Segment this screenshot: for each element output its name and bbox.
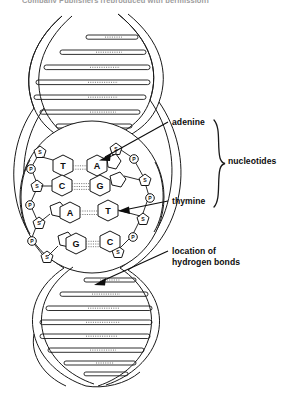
base-hexagon-G-2: G — [90, 175, 110, 196]
base-hexagon-C-4: C — [100, 231, 120, 252]
svg-text:P: P — [29, 166, 33, 172]
dna-illustration: S P S P S — [0, 0, 295, 393]
svg-text:S: S — [116, 249, 120, 255]
base-hexagon-A-3: A — [60, 202, 80, 223]
svg-text:C: C — [107, 237, 114, 247]
svg-text:P: P — [28, 202, 32, 208]
svg-text:A: A — [94, 161, 101, 171]
svg-text:P: P — [30, 238, 34, 244]
backbone-unit-left-2: P — [27, 165, 36, 174]
svg-text:P: P — [148, 195, 152, 201]
svg-text:S: S — [143, 177, 147, 183]
base-hexagon-C-2: C — [52, 175, 72, 196]
label-hydrogen-bonds-line2: hydrogen bonds — [172, 257, 240, 268]
svg-text:S: S — [35, 183, 39, 189]
nucleotides-brace — [214, 120, 225, 207]
backbone-unit-right-6: P — [129, 233, 138, 242]
base-hexagon-T-1: T — [53, 155, 73, 176]
svg-text:A: A — [67, 208, 74, 218]
svg-text:P: P — [131, 234, 135, 240]
svg-text:G: G — [72, 239, 79, 249]
base-hexagon-G-4: G — [66, 233, 86, 254]
backbone-unit-left-4: P — [26, 201, 35, 210]
svg-text:G: G — [96, 181, 103, 191]
bottom-helix-rungs — [40, 278, 152, 376]
base-hexagon-T-3: T — [98, 200, 118, 221]
svg-text:T: T — [105, 206, 111, 216]
enlarged-nucleotide-detail: S P S P S — [20, 121, 164, 273]
backbone-unit-right-2: P — [130, 155, 139, 164]
svg-text:S: S — [38, 149, 42, 155]
label-hydrogen-bonds-line1: location of — [172, 246, 240, 257]
svg-text:T: T — [60, 161, 66, 171]
label-hydrogen-bonds: location of hydrogen bonds — [172, 246, 240, 267]
backbone-unit-right-4: P — [146, 194, 155, 203]
label-nucleotides: nucleotides — [228, 156, 276, 167]
dna-diagram-figure: Company Publishers (reproduced with perm… — [0, 0, 295, 393]
svg-text:C: C — [59, 181, 66, 191]
clipped-top-caption: Company Publishers (reproduced with perm… — [22, 0, 209, 3]
label-thymine: thymine — [172, 196, 205, 207]
svg-text:S: S — [141, 216, 145, 222]
label-adenine: adenine — [172, 117, 205, 128]
svg-text:P: P — [132, 156, 136, 162]
backbone-unit-left-6: P — [28, 237, 37, 246]
